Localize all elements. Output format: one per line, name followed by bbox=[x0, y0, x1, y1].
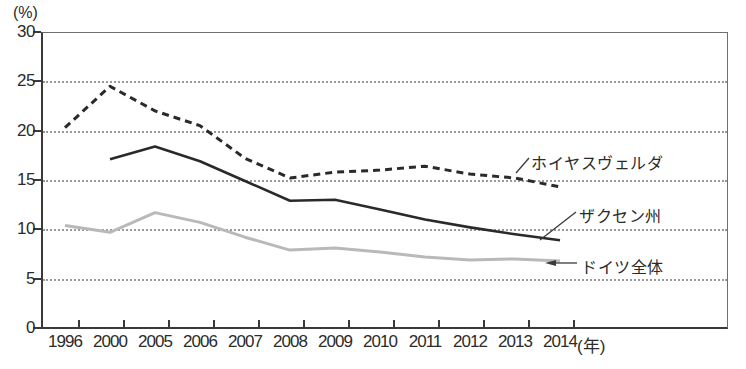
x-axis-tick-2000 bbox=[123, 320, 125, 327]
unemployment-rate-line-chart: (%) ホイヤスヴェルダ ザクセン州 ドイツ全体 (年) 05101520253… bbox=[0, 0, 746, 369]
y-tick-label-30: 30 bbox=[0, 22, 35, 42]
x-tick-label-2010: 2010 bbox=[357, 332, 403, 352]
y-tick-label-5: 5 bbox=[0, 269, 35, 289]
series-label-germany: ドイツ全体 bbox=[581, 254, 664, 278]
gridline-15 bbox=[43, 180, 727, 182]
gridline-10 bbox=[43, 229, 727, 231]
x-tick-label-1996: 1996 bbox=[42, 332, 88, 352]
x-tick-label-2011: 2011 bbox=[402, 332, 448, 352]
x-tick-label-2008: 2008 bbox=[267, 332, 313, 352]
x-tick-label-2013: 2013 bbox=[492, 332, 538, 352]
x-tick-label-2006: 2006 bbox=[177, 332, 223, 352]
series-label-saxony: ザクセン州 bbox=[579, 203, 662, 227]
gridline-25 bbox=[43, 81, 727, 83]
gridline-5 bbox=[43, 279, 727, 281]
x-axis-tick-1996 bbox=[78, 320, 80, 327]
x-axis-tick-2009 bbox=[348, 320, 350, 327]
y-tick-label-25: 25 bbox=[0, 71, 35, 91]
x-tick-label-2005: 2005 bbox=[132, 332, 178, 352]
series-label-hoyerswerda: ホイヤスヴェルダ bbox=[531, 150, 663, 174]
x-axis-tick-2007 bbox=[258, 320, 260, 327]
y-tick-label-15: 15 bbox=[0, 170, 35, 190]
y-tick-label-10: 10 bbox=[0, 219, 35, 239]
y-tick-label-20: 20 bbox=[0, 121, 35, 141]
x-axis-tick-2010 bbox=[393, 320, 395, 327]
gridline-20 bbox=[43, 131, 727, 133]
y-tick-label-0: 0 bbox=[0, 318, 35, 338]
x-axis-tick-2014 bbox=[573, 320, 575, 327]
x-tick-label-2012: 2012 bbox=[447, 332, 493, 352]
x-axis-tick-2012 bbox=[483, 320, 485, 327]
x-axis-tick-2005 bbox=[168, 320, 170, 327]
x-tick-label-2014: 2014 bbox=[537, 332, 583, 352]
x-axis-tick-2011 bbox=[438, 320, 440, 327]
x-tick-label-2009: 2009 bbox=[312, 332, 358, 352]
x-tick-label-2007: 2007 bbox=[222, 332, 268, 352]
x-axis-tick-2013 bbox=[528, 320, 530, 327]
x-axis-tick-2008 bbox=[303, 320, 305, 327]
x-axis-tick-2006 bbox=[213, 320, 215, 327]
plot-area bbox=[41, 32, 728, 329]
x-tick-label-2000: 2000 bbox=[87, 332, 133, 352]
y-axis-unit-label: (%) bbox=[13, 4, 38, 22]
